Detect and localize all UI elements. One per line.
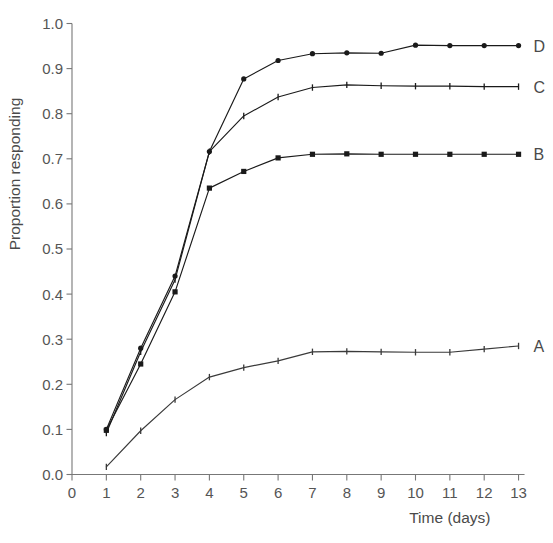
- series-line-a: [106, 346, 518, 467]
- y-tick-label: 0.5: [42, 240, 63, 257]
- series-a: A: [106, 338, 544, 470]
- series-label-a: A: [534, 338, 545, 355]
- series-line-b: [106, 154, 518, 430]
- data-point: [482, 152, 487, 157]
- series-line-c: [106, 85, 518, 433]
- y-tick-label: 0.8: [42, 105, 63, 122]
- data-point: [241, 169, 246, 174]
- x-tick-label: 0: [68, 484, 76, 501]
- data-point: [413, 43, 418, 48]
- x-tick-label: 11: [442, 484, 458, 501]
- series-label-c: C: [534, 79, 546, 96]
- series-line-d: [106, 45, 518, 429]
- data-point: [310, 152, 315, 157]
- x-tick-label: 9: [377, 484, 385, 501]
- data-point: [276, 58, 281, 63]
- x-tick-label: 7: [308, 484, 316, 501]
- data-point: [447, 43, 452, 48]
- y-tick-label: 0.3: [42, 331, 63, 348]
- data-point: [207, 186, 212, 191]
- x-tick-label: 12: [476, 484, 493, 501]
- x-axis: 012345678910111213: [68, 475, 527, 501]
- data-point: [447, 152, 452, 157]
- x-tick-label: 10: [407, 484, 424, 501]
- data-point: [344, 151, 349, 156]
- x-tick-label: 1: [102, 484, 110, 501]
- y-axis: 0.00.10.20.30.40.50.60.70.80.91.0: [42, 15, 72, 483]
- series-label-d: D: [534, 38, 546, 55]
- data-point: [516, 152, 521, 157]
- x-tick-label: 13: [510, 484, 527, 501]
- data-point: [482, 43, 487, 48]
- y-tick-label: 0.4: [42, 286, 63, 303]
- y-tick-label: 0.6: [42, 195, 63, 212]
- series-c: C: [106, 79, 545, 437]
- x-tick-label: 3: [171, 484, 179, 501]
- chart-canvas: 0.00.10.20.30.40.50.60.70.80.91.0Proport…: [0, 0, 553, 543]
- series-label-b: B: [534, 146, 545, 163]
- x-axis-title: Time (days): [409, 509, 490, 526]
- y-tick-label: 0.7: [42, 150, 63, 167]
- data-point: [138, 361, 143, 366]
- data-point: [516, 43, 521, 48]
- y-tick-label: 0.0: [42, 466, 63, 483]
- chart-figure: 0.00.10.20.30.40.50.60.70.80.91.0Proport…: [0, 0, 553, 543]
- data-point: [413, 152, 418, 157]
- data-point: [379, 51, 384, 56]
- data-point: [276, 155, 281, 160]
- y-axis-title: Proportion responding: [6, 98, 23, 251]
- y-tick-label: 0.2: [42, 376, 63, 393]
- y-tick-label: 1.0: [42, 15, 63, 32]
- data-point: [344, 50, 349, 55]
- x-tick-label: 5: [240, 484, 248, 501]
- data-point: [104, 428, 109, 433]
- data-point: [241, 76, 246, 81]
- x-tick-label: 2: [137, 484, 145, 501]
- data-point: [310, 51, 315, 56]
- y-tick-label: 0.1: [42, 421, 63, 438]
- data-point: [172, 289, 177, 294]
- data-point: [379, 152, 384, 157]
- y-tick-label: 0.9: [42, 60, 63, 77]
- x-tick-label: 4: [205, 484, 213, 501]
- series-d: D: [104, 38, 545, 432]
- x-tick-label: 6: [274, 484, 282, 501]
- x-tick-label: 8: [343, 484, 351, 501]
